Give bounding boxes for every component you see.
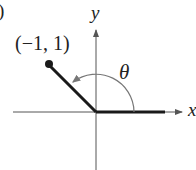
angle-diagram: ) y x (−1, 1) θ — [0, 0, 196, 170]
x-axis-label: x — [188, 99, 196, 121]
part-label-fragment: ) — [0, 0, 4, 22]
point-marker — [45, 60, 53, 68]
point-label: (−1, 1) — [15, 32, 70, 55]
terminal-side — [49, 65, 96, 112]
y-axis-label: y — [91, 2, 99, 24]
angle-label: θ — [119, 60, 129, 85]
diagram-graphics — [0, 0, 196, 170]
